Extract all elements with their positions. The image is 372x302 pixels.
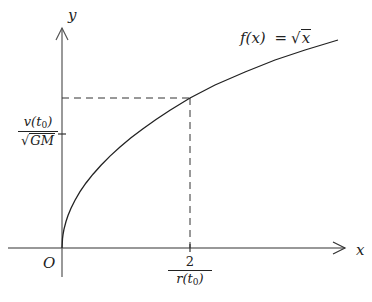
- x-tick-numerator: 2: [168, 255, 212, 271]
- function-eq: =: [271, 29, 292, 47]
- origin-label: O: [43, 256, 55, 271]
- y-axis-label: y: [68, 8, 76, 23]
- y-tick-label: v(t0) √GM: [18, 115, 58, 149]
- x-axis-label: x: [356, 243, 364, 258]
- sqrt-symbol-icon: √: [21, 133, 29, 148]
- sqrt-symbol-icon: √: [291, 29, 301, 47]
- function-radicand: x: [301, 29, 311, 47]
- y-tick-numerator: v(t0): [18, 115, 58, 132]
- y-tick-denominator: √GM: [18, 132, 58, 148]
- x-tick-label: 2 r(t0): [168, 255, 212, 287]
- function-label: f(x) =√x: [240, 29, 311, 47]
- x-tick-denominator: r(t0): [168, 271, 212, 287]
- function-lhs: f(x): [240, 29, 266, 47]
- sqrt-curve: [62, 40, 338, 248]
